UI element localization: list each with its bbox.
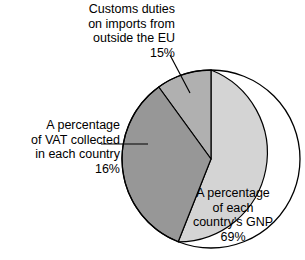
slice-label-gnp-line-1: A percentage (176, 186, 290, 201)
slice-label-vat-line-3: in each country (2, 147, 120, 162)
slice-label-customs-line-1: Customs duties (53, 2, 175, 17)
slice-label-gnp-value: 69% (176, 230, 290, 245)
slice-label-vat-line-2: of VAT collected (2, 133, 120, 148)
slice-label-gnp-line-2: of each (176, 201, 290, 216)
slice-label-customs-duties: Customs duties on imports from outside t… (53, 2, 175, 60)
slice-label-gnp-line-3: country's GNP (176, 215, 290, 230)
slice-label-customs-line-2: on imports from (53, 17, 175, 32)
slice-label-country-gnp: A percentage of each country's GNP 69% (176, 186, 290, 244)
slice-label-customs-value: 15% (53, 46, 175, 61)
slice-label-vat-collected: A percentage of VAT collected in each co… (2, 118, 120, 176)
slice-label-vat-value: 16% (2, 162, 120, 177)
slice-label-customs-line-3: outside the EU (53, 31, 175, 46)
slice-label-vat-line-1: A percentage (2, 118, 120, 133)
